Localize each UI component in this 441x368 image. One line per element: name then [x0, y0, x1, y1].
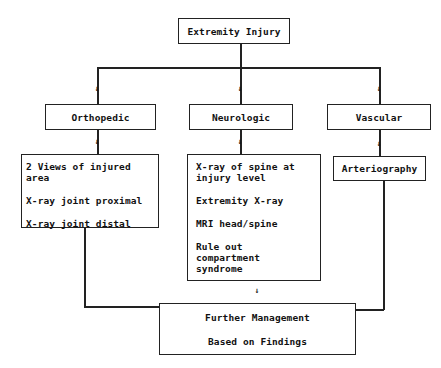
root-node-label: Extremity Injury	[187, 26, 280, 37]
arrow-down-icon: ↓	[236, 85, 244, 93]
list-item: X-ray joint proximal	[26, 195, 154, 206]
list-item: X-ray joint distal	[26, 218, 154, 229]
outcome-node-further-management: Further Management Based on Findings	[159, 303, 356, 355]
arrow-down-icon: ↓	[93, 85, 101, 93]
arrow-down-icon: ↓	[375, 85, 383, 93]
arrow-down-icon: ↓	[93, 138, 101, 146]
list-item: X-ray of spine at injury level	[196, 161, 312, 183]
arrow-down-icon: ↓	[375, 140, 383, 148]
connector-vasc-to-outcome-v	[383, 180, 385, 310]
outcome-line-1: Further Management	[160, 312, 355, 324]
root-node-extremity-injury: Extremity Injury	[178, 18, 290, 44]
category-node-vascular: Vascular	[327, 104, 431, 130]
connector-horizontal-branch	[97, 67, 380, 69]
list-item: Extremity X-ray	[196, 195, 312, 206]
connector-root-down	[240, 43, 242, 67]
connector-ortho-to-outcome-v	[84, 227, 86, 307]
list-item: 2 Views of injured area	[26, 161, 154, 183]
category-node-neurologic: Neurologic	[189, 104, 293, 130]
list-item: Rule out compartment syndrome	[196, 241, 312, 274]
vascular-workup-arteriography: Arteriography	[333, 156, 426, 181]
outcome-line-2: Based on Findings	[160, 336, 355, 348]
connector-ortho-to-outcome-h	[84, 306, 159, 308]
category-label: Neurologic	[212, 112, 270, 123]
orthopedic-workup-list: 2 Views of injured area X-ray joint prox…	[21, 154, 159, 228]
list-item: Arteriography	[342, 163, 418, 174]
neurologic-workup-list: X-ray of spine at injury level Extremity…	[187, 154, 321, 281]
category-label: Orthopedic	[71, 112, 129, 123]
arrow-down-icon: ↓	[236, 138, 244, 146]
arrow-down-icon: ↓	[253, 287, 261, 295]
category-label: Vascular	[356, 112, 403, 123]
connector-vasc-to-outcome-h	[355, 309, 384, 311]
list-item: MRI head/spine	[196, 218, 312, 229]
category-node-orthopedic: Orthopedic	[45, 104, 156, 130]
